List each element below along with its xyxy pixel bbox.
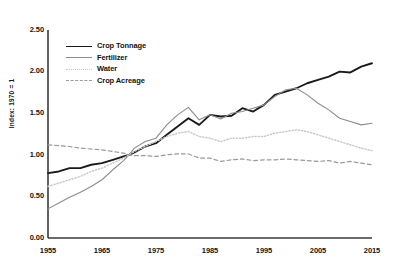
series-line-crop-acreage — [48, 145, 372, 165]
series-line-fertilizer — [48, 88, 372, 209]
legend-swatch-fertilizer — [66, 52, 92, 62]
line-chart: Index: 1970 = 1 2.50 2.00 1.50 1.00 0.50… — [0, 0, 397, 270]
legend-label-fertilizer: Fertilizer — [97, 53, 127, 62]
legend-swatch-crop-tonnage — [66, 41, 92, 51]
legend-label-crop-tonnage: Crop Tonnage — [97, 41, 146, 50]
legend-item-water: Water — [66, 63, 146, 75]
legend-item-fertilizer: Fertilizer — [66, 52, 146, 64]
legend-label-crop-acreage: Crop Acreage — [97, 76, 145, 85]
legend: Crop Tonnage Fertilizer Water Crop Acrea… — [66, 40, 146, 86]
legend-item-crop-acreage: Crop Acreage — [66, 75, 146, 87]
legend-item-crop-tonnage: Crop Tonnage — [66, 40, 146, 52]
legend-swatch-crop-acreage — [66, 75, 92, 85]
plot-area — [0, 0, 397, 270]
legend-label-water: Water — [97, 64, 117, 73]
legend-swatch-water — [66, 64, 92, 74]
